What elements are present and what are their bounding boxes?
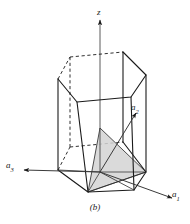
axis-label-a3-subscript: 3 [11, 166, 14, 173]
axis-label-z: z [97, 8, 101, 17]
axis-label-a3: a3 [6, 161, 14, 172]
axis-label-a2-text: a [131, 102, 136, 112]
hidden-edge-bottom-a [58, 147, 70, 170]
axis-label-a3-text: a [6, 160, 11, 170]
figure-caption: (b) [0, 203, 190, 212]
vertical-edge-front-left [77, 102, 88, 192]
axis-label-a1: a1 [172, 190, 180, 201]
axis-label-z-text: z [97, 7, 101, 17]
axis-label-a1-subscript: 1 [177, 195, 180, 202]
top-face-outline [58, 52, 146, 102]
hidden-edge-top-a [58, 57, 70, 79]
hidden-edge-top-b [70, 52, 123, 57]
axis-label-a1-text: a [172, 189, 177, 199]
axis-label-a2-subscript: 2 [136, 108, 139, 115]
figure-container: z a1 a2 a3 (b) [0, 0, 190, 224]
axis-label-a2: a2 [131, 103, 139, 114]
hexagonal-unit-cell-diagram [0, 0, 190, 224]
